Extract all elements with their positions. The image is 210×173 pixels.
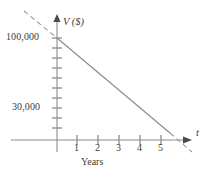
x-tick-label-5: 5 <box>158 142 163 153</box>
x-axis-arrow-icon <box>183 136 192 143</box>
depreciation-line <box>57 38 170 133</box>
y-tick-label-30000: 30,000 <box>12 101 40 112</box>
x-axis-caption: Years <box>81 156 103 167</box>
y-axis-label: V ($) <box>63 16 84 27</box>
x-tick-label-4: 4 <box>137 142 142 153</box>
x-axis-label: t <box>196 127 199 138</box>
graph-canvas <box>0 0 210 173</box>
y-tick-label-100000: 100,000 <box>6 31 39 42</box>
x-tick-label-1: 1 <box>74 142 79 153</box>
depreciation-graph-figure: 100,000 30,000 1 2 3 4 5 Years V ($) t <box>0 0 210 173</box>
dashed-extension-lower <box>170 133 192 152</box>
x-tick-label-3: 3 <box>116 142 121 153</box>
y-axis-arrow-icon <box>53 14 60 22</box>
x-tick-label-2: 2 <box>95 142 100 153</box>
